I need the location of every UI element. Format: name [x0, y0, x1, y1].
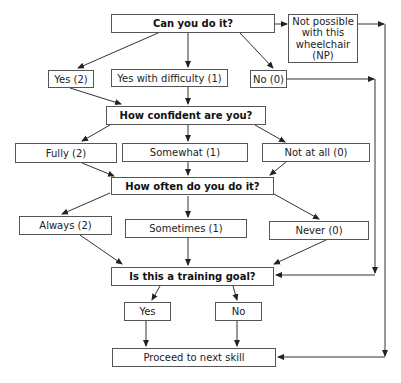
answer-no: No	[215, 302, 262, 321]
answer-never-0: Never (0)	[269, 221, 369, 240]
answer-always-2: Always (2)	[19, 216, 112, 235]
answer-not-at-all-0: Not at all (0)	[262, 143, 370, 162]
arrow-q3-never	[274, 194, 319, 219]
question-training-goal: Is this a training goal?	[111, 267, 274, 286]
answer-fully-2: Fully (2)	[15, 143, 117, 163]
answer-not-possible: Not possible with this wheelchair (NP)	[288, 14, 358, 63]
arrow-notatall-q3	[270, 162, 286, 175]
arrow-always-q4	[80, 235, 122, 264]
arrow-q4-yes	[152, 286, 160, 300]
arrow-q3-always	[62, 193, 110, 214]
arrow-q2-fully	[82, 125, 110, 141]
answer-somewhat-1: Somewhat (1)	[122, 143, 248, 162]
arrow-q1-no0	[240, 33, 273, 68]
terminal-proceed-next-skill: Proceed to next skill	[112, 348, 276, 367]
arrow-q1-yes2	[78, 33, 158, 68]
question-how-often: How often do you do it?	[111, 177, 274, 195]
answer-yes-2: Yes (2)	[48, 70, 94, 88]
question-how-confident: How confident are you?	[106, 106, 266, 125]
answer-yes-with-difficulty: Yes with difficulty (1)	[111, 69, 228, 87]
arrow-q2-notatall	[255, 125, 285, 142]
arrow-fully-q3	[82, 163, 114, 176]
question-can-you-do-it: Can you do it?	[111, 14, 275, 33]
arrow-yes2-q2	[70, 88, 121, 104]
answer-no-0: No (0)	[250, 70, 287, 88]
answer-sometimes-1: Sometimes (1)	[125, 219, 247, 238]
arrow-q4-no	[233, 286, 237, 300]
flowchart: Can you do it? Not possible with this wh…	[0, 0, 401, 383]
answer-yes: Yes	[124, 302, 171, 321]
arrow-never-q4	[274, 240, 326, 264]
